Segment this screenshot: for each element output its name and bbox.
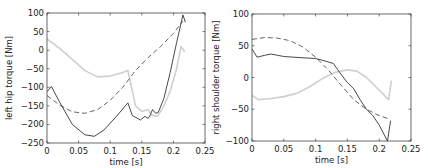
y-axis-label: left hip torque [Nm] (4, 36, 14, 120)
y-tick-label: −100 (226, 136, 249, 146)
axes-frame (252, 14, 411, 141)
axes-frame (47, 13, 205, 143)
x-tick-label: 0.05 (69, 146, 88, 156)
y-tick-label: −200 (21, 119, 44, 129)
x-tick-label: 0.15 (132, 146, 151, 156)
x-tick-label: 0.15 (338, 144, 357, 154)
x-axis-label: time [s] (110, 157, 143, 167)
y-tick-label: 50 (33, 27, 44, 37)
x-tick-label: 0.1 (309, 144, 323, 154)
series-line-dashed (47, 21, 183, 113)
y-tick-label: 100 (28, 8, 44, 18)
y-tick-label: 0 (39, 45, 44, 55)
figure: 00.050.10.150.20.25100500−50−100−150−200… (0, 0, 428, 168)
x-tick-label: 0 (44, 146, 49, 156)
y-tick-label: −100 (21, 82, 44, 92)
y-tick-label: 0 (244, 73, 249, 83)
x-tick-label: 0 (249, 144, 254, 154)
series-group (47, 15, 185, 136)
y-tick-label: −250 (21, 138, 44, 148)
right-shoulder-torque-plot: 00.050.10.150.20.25100500−50−100time [s]… (211, 9, 420, 165)
y-tick-label: 50 (238, 41, 249, 51)
x-tick-label: 0.25 (402, 144, 421, 154)
series-line-solid-dark (252, 49, 391, 141)
x-tick-label: 0.05 (274, 144, 293, 154)
left-hip-torque-plot: 00.050.10.150.20.25100500−50−100−150−200… (4, 8, 214, 167)
series-line-solid-dark (47, 15, 185, 136)
series-line-solid-light (252, 70, 391, 100)
y-tick-label: −150 (21, 101, 44, 111)
y-tick-label: 100 (233, 9, 249, 19)
x-tick-label: 0.2 (372, 144, 386, 154)
y-tick-label: −50 (231, 104, 249, 114)
series-line-solid-light (47, 39, 185, 116)
x-tick-label: 0.25 (196, 146, 215, 156)
x-tick-label: 0.2 (167, 146, 181, 156)
series-group (252, 38, 391, 142)
x-axis-label: time [s] (315, 155, 348, 165)
y-axis-label: right shoulder torque [Nm] (211, 20, 221, 134)
x-tick-label: 0.1 (103, 146, 117, 156)
y-tick-label: −50 (26, 64, 44, 74)
